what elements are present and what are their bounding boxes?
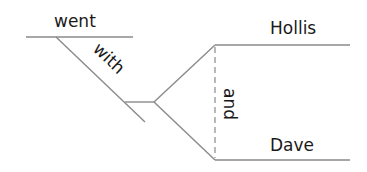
object-2-word: Dave [270,135,314,155]
preposition-word: with [89,38,129,77]
sentence-diagram: went with Hollis Dave and [0,0,367,172]
fork-upper-line [154,45,215,102]
fork-lower-line [154,102,215,160]
verb-word: went [54,11,96,31]
conjunction-word: and [220,88,240,120]
object-1-word: Hollis [270,18,316,38]
